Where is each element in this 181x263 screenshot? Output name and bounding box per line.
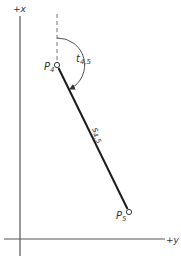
point-p4: [54, 62, 59, 67]
point-p5: [126, 209, 131, 214]
angle-label-t45: t4,5: [76, 53, 92, 66]
point-p4-label: P4: [44, 61, 55, 74]
y-axis-label: +y: [166, 235, 180, 245]
segment-label-s45: s4,5: [88, 125, 106, 145]
coordinate-diagram: +x +y P4 P5 t4,5 s4,5: [0, 0, 181, 263]
x-axis-label: +x: [13, 4, 27, 14]
point-p5-label: P5: [116, 210, 127, 223]
